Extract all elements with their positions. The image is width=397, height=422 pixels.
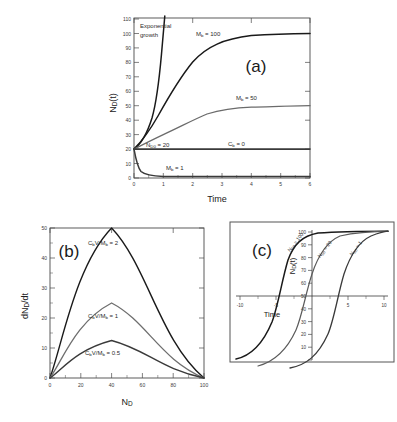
panel-b-xlabel: ND <box>121 397 133 407</box>
c-y-tick-90: 90 <box>301 243 307 248</box>
panel-a-x-tick-labels: 0 1 2 3 4 5 6 <box>133 181 312 187</box>
annotation-nd0-20: ND0 = 20 <box>316 239 333 259</box>
b-x-tick-60: 60 <box>140 382 146 388</box>
b-y-tick-0: 0 <box>44 375 47 381</box>
x-tick-0: 0 <box>133 181 136 187</box>
y-tick-20: 20 <box>125 146 131 152</box>
y-tick-40: 40 <box>125 117 131 123</box>
annotation-cbvmb-05: CbV/Mb = 0.5 <box>85 350 121 357</box>
c-y-tick-10: 10 <box>301 345 307 350</box>
annotation-exponential-line2: growth <box>140 32 158 38</box>
x-tick-3: 3 <box>221 181 224 187</box>
c-y-tick-80: 80 <box>301 256 307 261</box>
curve-mb-1 <box>134 149 310 177</box>
panel-b: 0 10 20 30 40 50 <box>14 218 214 418</box>
y-tick-0: 0 <box>128 175 131 181</box>
panel-b-letter: (b) <box>59 242 80 261</box>
panel-a-xlabel: Time <box>207 194 227 204</box>
annotation-mb-100: Mb = 100 <box>196 31 221 38</box>
y-tick-80: 80 <box>125 59 131 65</box>
annotation-nd0-20: ND0 = 20 <box>146 142 170 149</box>
b-y-tick-20: 20 <box>41 315 47 321</box>
annotation-exponential-line1: Exponential <box>140 23 171 29</box>
panel-b-ylabel: dND/dt <box>20 292 30 319</box>
curve-cbvmb-05 <box>50 341 204 379</box>
c-y-tick-60: 60 <box>301 281 307 286</box>
y-tick-10: 10 <box>125 161 131 167</box>
y-tick-90: 90 <box>125 45 131 51</box>
c-y-tick-20: 20 <box>301 332 307 337</box>
panel-c-letter: (c) <box>252 241 272 260</box>
panel-c-xlabel: Time <box>264 310 280 319</box>
b-x-tick-100: 100 <box>200 382 209 388</box>
annotation-cbvmb-2: CbV/Mb = 2 <box>88 240 119 247</box>
b-y-tick-30: 30 <box>41 285 47 291</box>
panel-a-letter: (a) <box>246 57 267 76</box>
curve-cbvmb-1 <box>50 303 204 378</box>
panel-a-y-tick-labels: 0 10 20 30 40 50 60 70 80 90 100 110 <box>123 16 132 181</box>
b-x-tick-20: 20 <box>78 382 84 388</box>
c-y-tick-30: 30 <box>301 320 307 325</box>
y-tick-100: 100 <box>123 31 132 37</box>
c-x-tick-5: 5 <box>347 303 350 308</box>
x-tick-6: 6 <box>309 181 312 187</box>
y-tick-30: 30 <box>125 132 131 138</box>
annotation-mb-50: Mb = 50 <box>236 95 258 102</box>
x-tick-1: 1 <box>162 181 165 187</box>
b-x-tick-40: 40 <box>109 382 115 388</box>
c-y-tick-70: 70 <box>301 268 307 273</box>
c-x-tick-10: 10 <box>381 303 387 308</box>
curve-mb-100 <box>134 34 310 150</box>
annotation-cbvmb-1: CbV/Mb = 1 <box>88 313 119 320</box>
b-y-tick-50: 50 <box>41 225 47 231</box>
panel-c: -10 -5 5 10 100 90 80 <box>228 218 396 368</box>
panel-c-ylabel: ND(t) <box>288 257 297 274</box>
b-y-tick-10: 10 <box>41 345 47 351</box>
y-tick-60: 60 <box>125 88 131 94</box>
panel-b-y-tick-labels: 0 10 20 30 40 50 <box>41 225 47 381</box>
y-tick-50: 50 <box>125 103 131 109</box>
c-x-tick-neg10: -10 <box>237 303 244 308</box>
y-tick-110: 110 <box>123 16 131 22</box>
panel-b-x-tick-labels: 0 20 40 60 80 100 <box>49 382 209 388</box>
figure-container: 0 10 20 30 40 50 60 70 80 90 100 110 <box>0 0 397 422</box>
b-x-tick-0: 0 <box>49 382 52 388</box>
annotation-nd0-1: ND0 = 1 <box>348 240 364 257</box>
annotation-mb-1: Mb = 1 <box>166 165 184 172</box>
b-x-tick-80: 80 <box>170 382 176 388</box>
b-y-tick-40: 40 <box>41 255 47 261</box>
x-tick-2: 2 <box>191 181 194 187</box>
x-tick-5: 5 <box>279 181 282 187</box>
y-tick-70: 70 <box>125 74 131 80</box>
panel-a: 0 10 20 30 40 50 60 70 80 90 100 110 <box>104 10 318 210</box>
panel-a-ylabel: ND(t) <box>108 93 118 113</box>
panel-c-y-tick-labels: 100 90 80 70 60 50 40 30 20 10 <box>298 230 306 350</box>
panel-c-annotations: ND0 = 100 ND0 = 20 ND0 = 1 <box>286 231 364 259</box>
annotation-cb-0: Cb = 0 <box>228 141 246 148</box>
x-tick-4: 4 <box>250 181 253 187</box>
